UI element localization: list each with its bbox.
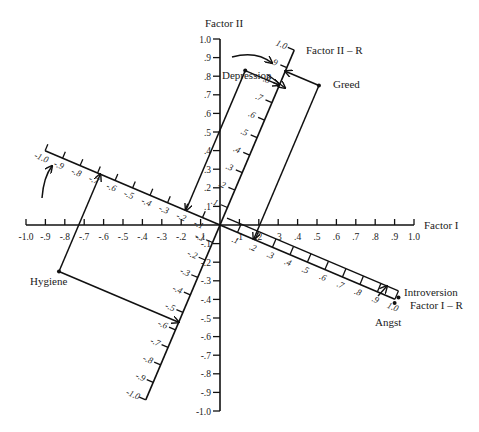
factor-ii-r-tick-label: .7 (254, 91, 265, 103)
factor-i-r-tick (80, 159, 83, 165)
angst-label: Angst (375, 316, 401, 328)
factor-i-r-tick-label: -.7 (88, 173, 101, 186)
greed-projection-ii-r (285, 71, 319, 85)
factor-ii-r-tick (169, 327, 175, 330)
factor-i-r-tick-label: .7 (335, 279, 346, 291)
factor-i-r-tick-label: .2 (248, 242, 259, 254)
factor-i-r-tick-label: -.5 (123, 188, 136, 201)
factor-ii-r-tick (184, 292, 190, 295)
factor-ii-r-tick (266, 100, 272, 103)
factor-ii-tick-label: -.5 (201, 314, 212, 324)
factor-ii-r-tick-label: -.3 (179, 265, 192, 278)
greed-projection-i-r (254, 86, 319, 240)
factor-i-tick-label: .7 (352, 232, 359, 242)
factor-i-tick-label: -.9 (40, 232, 51, 242)
factor-i-r-tick-label: -.3 (158, 203, 171, 216)
factor-ii-r-tick-label: -.4 (171, 283, 184, 296)
depression-projection-i-r (186, 71, 245, 211)
factor-ii-tick-label: -.7 (201, 351, 212, 361)
angst-point (393, 301, 397, 305)
factor-i-axis-label: Factor I (424, 219, 459, 231)
rotated-axes: -1.0-1.0-.9-.9-.8-.8-.7-.7-.6-.6-.5-.5-.… (33, 38, 401, 402)
factor-i-r-tick-label: .4 (283, 256, 294, 268)
factor-ii-r-tick (176, 310, 182, 313)
factor-i-r-tick-label: .1 (230, 234, 240, 246)
factor-i-r-tick (203, 211, 206, 217)
factor-i-r-ribbon-line (227, 218, 398, 291)
factor-ii-r-tick (243, 152, 249, 155)
introversion-label: Introversion (404, 286, 458, 298)
factor-ii-r-axis-label: Factor II – R (306, 44, 363, 56)
factor-i-r-tick (98, 167, 101, 173)
hygiene-projection-ii-r (59, 272, 179, 323)
factor-i-tick-label: .8 (372, 232, 379, 242)
rotation-arrow-left (42, 166, 52, 198)
factor-ii-r-tick-label: .6 (247, 109, 258, 121)
factor-ii-r-tick-label: .2 (217, 178, 228, 190)
factor-i-tick-label: .5 (313, 232, 320, 242)
factor-ii-tick-label: .6 (204, 109, 211, 119)
factor-i-r-tick (133, 181, 136, 187)
greed-point (317, 84, 321, 88)
factor-i-r-tick-label: .8 (353, 286, 364, 298)
factor-i-tick-label: 1.0 (408, 232, 420, 242)
factor-i-tick-label: -1.0 (18, 232, 33, 242)
factor-i-r-tick (115, 174, 118, 180)
diagram-canvas: -1.0-.9-.8-.7-.6-.5-.4-.3-.2-.1.1.2.3.4.… (0, 0, 479, 432)
factor-i-r-tick-label: .3 (265, 249, 276, 261)
factor-ii-tick-label: .2 (204, 183, 211, 193)
greed-label: Greed (333, 78, 360, 90)
factor-i-r-rung (377, 284, 381, 292)
factor-ii-tick-label: .7 (204, 90, 211, 100)
factor-ii-r-tick-label: -.6 (156, 318, 169, 331)
factor-i-tick-label: -.7 (79, 232, 90, 242)
factor-i-r-tick (45, 144, 48, 150)
factor-ii-tick-label: .9 (204, 53, 211, 63)
factor-ii-r-tick-label: .4 (232, 143, 243, 155)
factor-i-r-rung (290, 246, 294, 254)
factor-ii-r-tick (228, 187, 234, 190)
factor-ii-r-tick (236, 170, 242, 173)
introversion-point (396, 296, 400, 300)
factor-ii-axis-label: Factor II (205, 17, 244, 29)
factor-i-r-tick (63, 152, 66, 158)
factor-ii-tick-label: -1.0 (196, 407, 211, 417)
factor-i-r-tick-label: -.6 (105, 181, 118, 194)
factor-ii-r-tick-label: 1.0 (274, 38, 289, 52)
factor-ii-r-tick-label: -.8 (142, 353, 155, 366)
factor-i-tick-label: .6 (333, 232, 340, 242)
factor-i-tick-label: .9 (391, 232, 398, 242)
factor-ii-r-tick (288, 47, 294, 50)
factor-ii-r-tick (147, 380, 153, 383)
factor-i-r-rung (307, 254, 311, 262)
factor-ii-tick-label: 1.0 (199, 35, 211, 45)
factor-i-tick-label: -.4 (137, 232, 148, 242)
factor-ii-r-tick-label: -.5 (164, 300, 177, 313)
factor-ii-r-tick (280, 65, 286, 68)
factor-ii-r-tick (191, 275, 197, 278)
factor-i-r-tick-label: -.8 (70, 166, 83, 179)
factor-i-r-tick-label: .5 (300, 264, 311, 276)
factor-ii-r-tick-label: .5 (239, 126, 250, 138)
factor-i-r-rung (325, 261, 329, 269)
factor-i-r-tick-label: .6 (318, 271, 329, 283)
factor-ii-tick-label: -.9 (201, 388, 212, 398)
factor-i-tick-label: -.8 (60, 232, 71, 242)
factor-ii-tick-label: -.4 (201, 295, 212, 305)
factor-i-r-axis-label: Factor I – R (410, 299, 464, 311)
factor-ii-r-tick (221, 205, 227, 208)
hygiene-label: Hygiene (30, 275, 67, 287)
factor-i-r-tick-label: -.4 (140, 195, 153, 208)
factor-i-tick-label: -.6 (98, 232, 109, 242)
factor-i-r-rung (360, 276, 364, 284)
factor-i-r-tick (150, 189, 153, 195)
factor-i-r-tick-label: -.1 (193, 218, 206, 231)
factor-ii-tick-label: .5 (204, 128, 211, 138)
factor-ii-r-tick (139, 397, 145, 400)
factor-ii-r-tick (251, 135, 257, 138)
factor-ii-r-tick-label: .3 (225, 161, 236, 173)
factor-i-r-tick (168, 196, 171, 202)
factor-i-r-rung (342, 269, 346, 277)
factor-ii-r-tick-label: -.2 (186, 248, 199, 261)
factor-ii-r-tick (162, 345, 168, 348)
